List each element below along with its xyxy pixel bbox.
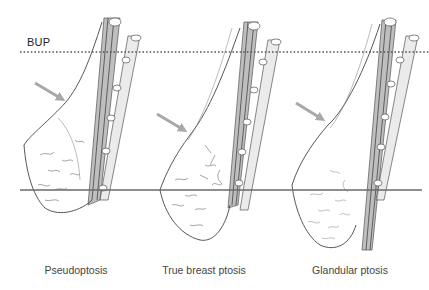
panel-true-breast-ptosis-sketch [160,22,281,240]
panel-glandular-ptosis-sketch [292,18,419,250]
ptosis-diagram [0,0,429,290]
caption-pseudoptosis: Pseudoptosis [44,264,107,276]
bup-label: BUP [27,36,50,48]
caption-glandular-ptosis: Glandular ptosis [312,264,388,276]
arrow-icon-glandular-ptosis [296,103,322,119]
caption-true-breast-ptosis: True breast ptosis [162,264,246,276]
arrow-icon-pseudoptosis [35,83,62,99]
arrow-icon-true-breast-ptosis [157,114,184,130]
